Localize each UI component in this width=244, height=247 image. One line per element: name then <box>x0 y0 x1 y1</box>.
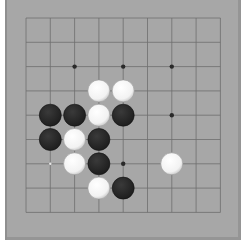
black-stone[interactable] <box>39 129 61 151</box>
star-point <box>121 64 125 68</box>
white-stone[interactable] <box>88 177 110 199</box>
black-stone[interactable] <box>64 104 86 126</box>
black-stone[interactable] <box>39 104 61 126</box>
white-stone[interactable] <box>88 104 110 126</box>
star-point <box>170 64 174 68</box>
star-point <box>72 64 76 68</box>
star-point <box>170 113 174 117</box>
white-stone[interactable] <box>64 129 86 151</box>
board-grid[interactable] <box>0 0 244 247</box>
white-stone[interactable] <box>64 153 86 175</box>
black-stone[interactable] <box>88 129 110 151</box>
black-stone[interactable] <box>112 104 134 126</box>
black-stone[interactable] <box>88 153 110 175</box>
black-stone[interactable] <box>112 177 134 199</box>
white-stone[interactable] <box>161 153 183 175</box>
white-stone[interactable] <box>88 80 110 102</box>
star-point <box>121 162 125 166</box>
board-marker <box>49 163 51 165</box>
white-stone[interactable] <box>112 80 134 102</box>
